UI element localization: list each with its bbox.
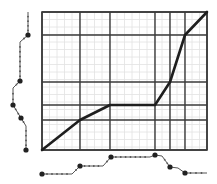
sample-dot: [51, 173, 53, 175]
sample-dot: [19, 61, 21, 63]
sample-dot: [130, 156, 132, 158]
sample-dot: [75, 169, 77, 171]
sample-dot: [66, 173, 68, 175]
sample-dot: [19, 46, 21, 48]
sample-dot: [115, 156, 117, 158]
sample-dot: [88, 165, 90, 167]
sample-dot: [27, 25, 29, 27]
keypoint-marker: [39, 171, 44, 176]
keypoint-marker: [23, 147, 28, 152]
sample-dot: [120, 156, 122, 158]
sample-dot: [19, 56, 21, 58]
keypoint-marker: [18, 115, 23, 120]
sample-dot: [27, 20, 29, 22]
sample-dot: [139, 156, 141, 158]
bottom-signal: [39, 152, 207, 176]
sample-dot: [166, 162, 168, 164]
sample-dot: [56, 173, 58, 175]
sample-dot: [134, 156, 136, 158]
sample-dot: [46, 173, 48, 175]
sample-dot: [27, 16, 29, 18]
sample-dot: [19, 75, 21, 77]
sample-dot: [25, 140, 27, 142]
sample-dot: [23, 38, 25, 40]
keypoint-marker: [182, 170, 187, 175]
sample-dot: [25, 144, 27, 146]
sample-dot: [19, 65, 21, 67]
dtw-diagram: [0, 0, 217, 184]
sample-dot: [195, 172, 197, 174]
sample-dot: [201, 172, 203, 174]
sample-dot: [19, 51, 21, 53]
sample-dot: [93, 165, 95, 167]
sample-dot: [17, 113, 19, 115]
sample-dot: [84, 165, 86, 167]
keypoint-marker: [108, 154, 113, 159]
keypoint-marker: [25, 32, 30, 37]
sample-dot: [106, 161, 108, 163]
sample-dot: [15, 108, 17, 110]
keypoint-marker: [167, 164, 172, 169]
sample-dot: [27, 30, 29, 32]
sample-dot: [61, 173, 63, 175]
keypoint-marker: [77, 163, 82, 168]
keypoint-marker: [152, 152, 157, 157]
sample-dot: [23, 121, 25, 123]
sample-dot: [16, 84, 18, 86]
sample-dot: [25, 130, 27, 132]
sample-dot: [125, 156, 127, 158]
sample-dot: [164, 159, 166, 161]
keypoint-marker: [17, 78, 22, 83]
sample-dot: [190, 172, 192, 174]
diagram-svg: [0, 0, 217, 184]
sample-dot: [19, 70, 21, 72]
sample-dot: [12, 98, 14, 100]
signal-line: [42, 155, 207, 174]
sample-dot: [98, 165, 100, 167]
keypoint-marker: [10, 102, 15, 107]
left-signal: [10, 12, 30, 153]
sample-dot: [12, 93, 14, 95]
sample-dot: [144, 156, 146, 158]
sample-dot: [25, 135, 27, 137]
